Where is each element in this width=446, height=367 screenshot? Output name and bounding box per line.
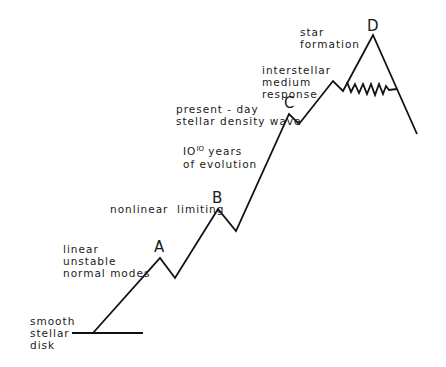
label-linear-unstable-normal-modes: linear unstable normal modes (63, 243, 150, 279)
label-present-day-density-wave: present - day stellar density wave (176, 103, 302, 127)
evolution-path-lines (0, 0, 446, 367)
label-evolution-time: IOIO years (183, 145, 242, 157)
label-smooth-stellar-disk: smooth stellar disk (30, 315, 75, 351)
label-interstellar-medium-response: interstellar medium response (262, 64, 331, 100)
marker-b: B (212, 191, 222, 206)
marker-a: A (154, 240, 164, 255)
marker-d: D (367, 19, 379, 34)
star-formation-zigzag (347, 82, 397, 95)
label-nonlinear-limiting: nonlinear limiting (110, 203, 224, 215)
diagram-canvas: smooth stellar disk linear unstable norm… (0, 0, 446, 367)
label-star-formation: star formation (300, 26, 360, 50)
main-path-line (93, 35, 417, 333)
label-of-evolution: of evolution (183, 158, 257, 170)
